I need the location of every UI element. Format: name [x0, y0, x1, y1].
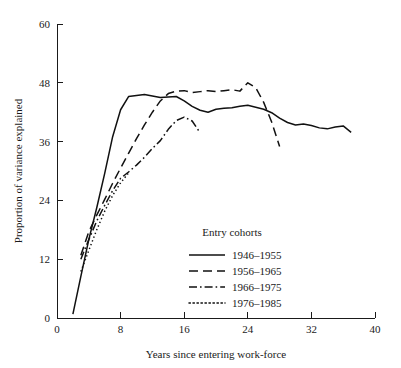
y-tick-label: 48	[39, 77, 51, 89]
legend-label-1: 1956–1965	[232, 265, 282, 277]
x-tick-label: 8	[118, 323, 124, 335]
series-line-2	[81, 117, 200, 259]
y-tick-marks	[57, 24, 63, 318]
legend-label-2: 1966–1975	[232, 281, 282, 293]
chart-figure: 0816243240 01224364860 Years since enter…	[0, 0, 401, 368]
line-chart-svg: 0816243240 01224364860 Years since enter…	[0, 0, 401, 368]
y-tick-label: 24	[39, 194, 51, 206]
x-tick-marks	[57, 312, 375, 318]
x-tick-labels: 0816243240	[54, 323, 381, 335]
data-series-group	[73, 83, 351, 314]
x-tick-label: 0	[54, 323, 60, 335]
y-tick-label: 60	[39, 18, 51, 30]
x-axis-title: Years since entering work-force	[146, 348, 286, 360]
y-tick-label: 36	[39, 136, 51, 148]
series-line-3	[81, 173, 129, 271]
legend-label-3: 1976–1985	[232, 297, 282, 309]
y-tick-label: 0	[45, 312, 51, 324]
x-tick-label: 16	[179, 323, 191, 335]
series-line-0	[73, 95, 351, 315]
y-axis-title: Proportion of variance explained	[12, 98, 24, 243]
legend-label-0: 1946–1955	[232, 249, 282, 261]
y-tick-labels: 01224364860	[39, 18, 51, 324]
x-tick-label: 24	[242, 323, 254, 335]
legend-title: Entry cohorts	[202, 226, 262, 238]
legend-items: 1946–19551956–19651966–19751976–1985	[189, 249, 282, 309]
x-tick-label: 40	[370, 323, 382, 335]
y-tick-label: 12	[39, 253, 50, 265]
x-tick-label: 32	[306, 323, 317, 335]
chart-legend: Entry cohorts 1946–19551956–19651966–197…	[189, 226, 282, 309]
